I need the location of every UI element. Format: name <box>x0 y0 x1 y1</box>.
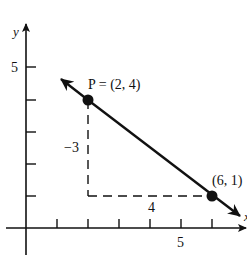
point-6-1-label: (6, 1) <box>212 173 243 189</box>
point-p <box>83 95 94 106</box>
rise-label: −3 <box>64 140 79 155</box>
slope-diagram: y x 5 5 −3 4 P = (2, 4) (6, 1) <box>0 0 247 255</box>
x-axis-ticks <box>57 219 212 228</box>
y-axis-label: y <box>11 24 19 39</box>
y-axis-ticks <box>26 67 36 196</box>
y-tick-label-5: 5 <box>11 60 18 75</box>
x-axis-label: x <box>243 209 247 224</box>
run-label: 4 <box>148 200 155 215</box>
point-p-label: P = (2, 4) <box>88 77 141 93</box>
x-tick-label-5: 5 <box>177 235 184 250</box>
point-6-1 <box>207 191 218 202</box>
